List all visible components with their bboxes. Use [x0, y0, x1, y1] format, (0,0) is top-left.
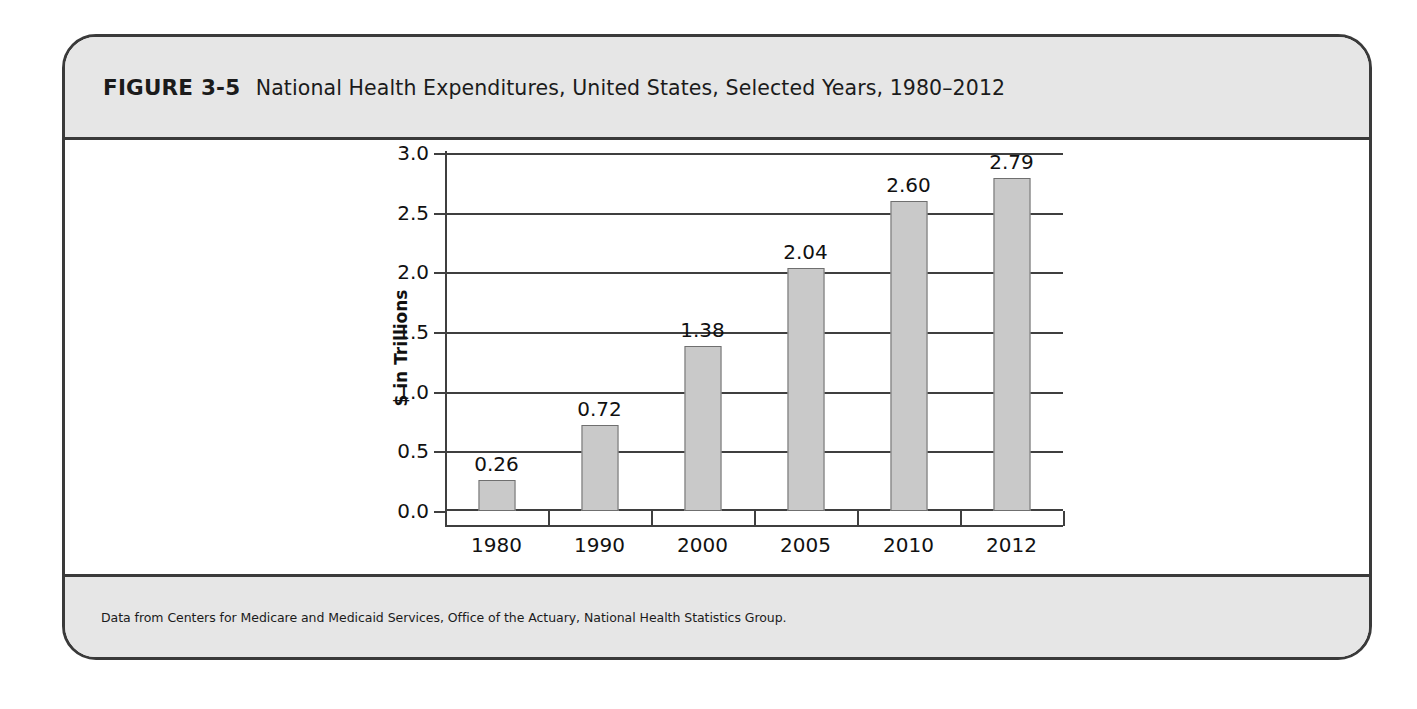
y-axis-tick-label: 0.0 [397, 499, 429, 523]
y-axis-tick-label: 1.0 [397, 380, 429, 404]
x-axis-tick [548, 511, 550, 526]
bar [787, 268, 824, 511]
y-axis-tick-label: 2.5 [397, 201, 429, 225]
bar-value-label: 0.72 [577, 397, 622, 421]
bar-chart: 0.00.51.01.52.02.53.0 0.260.721.382.042.… [445, 153, 1063, 511]
bar [581, 425, 618, 511]
gridline [445, 451, 1063, 453]
bar-value-label: 2.04 [783, 240, 828, 264]
x-axis-tick [445, 511, 447, 526]
gridline [445, 272, 1063, 274]
bar-value-label: 2.60 [886, 173, 931, 197]
bar-value-label: 0.26 [474, 452, 519, 476]
y-axis-tick [434, 153, 445, 155]
x-axis-tick [857, 511, 859, 526]
figure-header: FIGURE 3-5 National Health Expenditures,… [65, 37, 1369, 140]
y-axis-tick-label: 0.5 [397, 439, 429, 463]
x-axis-tick [960, 511, 962, 526]
figure-title: FIGURE 3-5 National Health Expenditures,… [103, 75, 1005, 100]
gridline [445, 213, 1063, 215]
chart-plot-area: $ in Trillions 0.00.51.01.52.02.53.0 0.2… [65, 140, 1369, 574]
gridline [445, 153, 1063, 155]
bar-value-label: 1.38 [680, 318, 725, 342]
y-axis-tick [434, 451, 445, 453]
x-axis-tick [754, 511, 756, 526]
x-axis-tick-label: 2010 [883, 533, 934, 557]
x-axis-tick-label: 2005 [780, 533, 831, 557]
x-axis-tick-label: 2012 [986, 533, 1037, 557]
y-axis-tick [434, 332, 445, 334]
figure-title-text: National Health Expenditures, United Sta… [256, 76, 1005, 100]
y-axis-tick-label: 3.0 [397, 141, 429, 165]
figure-frame: FIGURE 3-5 National Health Expenditures,… [62, 34, 1372, 660]
bar [478, 480, 515, 511]
figure-footer: Data from Centers for Medicare and Medic… [65, 574, 1369, 657]
y-axis-tick [434, 213, 445, 215]
source-note: Data from Centers for Medicare and Medic… [101, 610, 787, 625]
y-axis-tick-label: 1.5 [397, 320, 429, 344]
gridline [445, 392, 1063, 394]
bar-value-label: 2.79 [989, 150, 1034, 174]
figure-number: FIGURE 3-5 [103, 75, 256, 100]
x-axis-tick-label: 1980 [471, 533, 522, 557]
x-axis-tick [1063, 511, 1065, 526]
bar [890, 201, 927, 511]
y-axis-tick [434, 272, 445, 274]
bar [684, 346, 721, 511]
x-axis-tick-label: 2000 [677, 533, 728, 557]
x-axis-tick [651, 511, 653, 526]
gridline [445, 332, 1063, 334]
x-axis-tick-label: 1990 [574, 533, 625, 557]
y-axis-tick-label: 2.0 [397, 260, 429, 284]
y-axis-tick [434, 511, 445, 513]
bar [993, 178, 1030, 511]
y-axis-tick [434, 392, 445, 394]
